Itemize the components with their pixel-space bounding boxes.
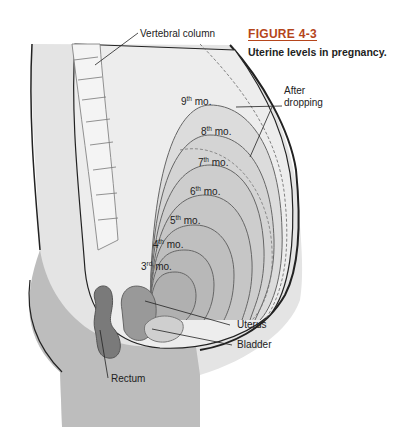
label-bladder: Bladder bbox=[237, 340, 271, 350]
figure-number: FIGURE 4-3 bbox=[248, 27, 317, 41]
uterine-levels-diagram bbox=[0, 0, 404, 430]
label-month-6: 6th mo. bbox=[190, 187, 220, 197]
label-uterus: Uterus bbox=[237, 320, 266, 330]
label-month-4: 4th mo. bbox=[153, 240, 183, 250]
figure-caption: Uterine levels in pregnancy. bbox=[248, 46, 387, 58]
label-vertebral-column: Vertebral column bbox=[140, 29, 215, 39]
label-month-8: 8th mo. bbox=[201, 127, 231, 137]
label-month-3: 3rd mo. bbox=[141, 262, 172, 272]
label-dropping: dropping bbox=[284, 98, 323, 108]
label-month-7: 7th mo. bbox=[198, 158, 228, 168]
label-rectum: Rectum bbox=[111, 374, 145, 384]
label-month-5: 5th mo. bbox=[170, 216, 200, 226]
label-after: After bbox=[284, 86, 305, 96]
label-month-9: 9th mo. bbox=[181, 97, 211, 107]
